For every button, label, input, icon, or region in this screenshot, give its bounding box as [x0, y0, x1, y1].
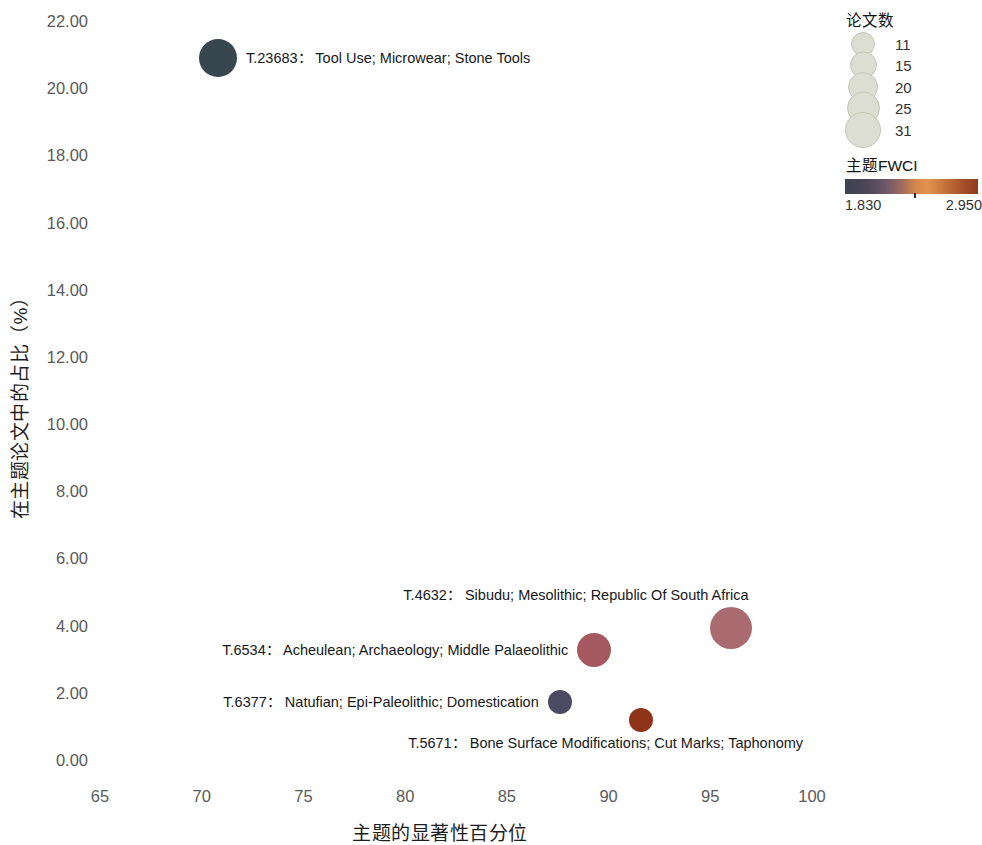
data-point-label: T.23683： Tool Use; Microwear; Stone Tool… — [246, 51, 530, 66]
y-axis-tick-label: 2.00 — [28, 685, 88, 702]
y-axis-tick-label: 16.00 — [28, 215, 88, 232]
data-point-bubble[interactable] — [199, 39, 237, 77]
size-legend-bubble — [845, 112, 881, 148]
size-legend-value: 25 — [895, 101, 912, 116]
x-axis-title: 主题的显著性百分位 — [0, 818, 880, 845]
size-legend-items: 1115202531 — [845, 33, 981, 141]
size-legend-value: 31 — [895, 122, 912, 137]
x-axis-tick-label: 80 — [396, 788, 414, 805]
y-axis-tick-label: 14.00 — [28, 282, 88, 299]
y-axis-tick-label: 10.00 — [28, 416, 88, 433]
color-legend: 主题FWCI 1.830 2.950 — [843, 157, 981, 214]
size-legend-value: 15 — [895, 58, 912, 73]
y-axis-tick-label: 20.00 — [28, 80, 88, 97]
data-point-bubble[interactable] — [710, 607, 752, 649]
y-axis-title: 在主题论文中的占比（%） — [5, 194, 32, 614]
y-axis-tick-label: 8.00 — [28, 483, 88, 500]
y-axis-tick-label: 18.00 — [28, 147, 88, 164]
x-axis-tick-label: 100 — [798, 788, 826, 805]
colorbar-max-value: 2.950 — [946, 197, 982, 213]
y-axis-tick-label: 4.00 — [28, 618, 88, 635]
colorbar-labels: 1.830 2.950 — [845, 197, 982, 214]
data-point-bubble[interactable] — [629, 708, 653, 732]
y-axis-tick-label: 22.00 — [28, 13, 88, 30]
y-axis-tick-label: 0.00 — [28, 752, 88, 769]
size-legend-value: 11 — [895, 36, 911, 51]
x-axis-tick-label: 95 — [701, 788, 719, 805]
data-point-label: T.6377： Natufian; Epi-Paleolithic; Domes… — [223, 695, 538, 710]
data-point-label: T.4632： Sibudu; Mesolithic; Republic Of … — [403, 588, 748, 603]
x-axis-tick-label: 70 — [193, 788, 211, 805]
colorbar-gradient — [845, 179, 978, 194]
data-point-bubble[interactable] — [548, 690, 572, 714]
x-axis-tick-label: 85 — [498, 788, 516, 805]
color-legend-title: 主题FWCI — [846, 157, 981, 174]
y-axis-tick-label: 12.00 — [28, 349, 88, 366]
size-legend-item: 31 — [845, 119, 981, 141]
colorbar-min-value: 1.830 — [845, 197, 881, 213]
data-point-bubble[interactable] — [577, 633, 611, 667]
x-axis-tick-label: 75 — [294, 788, 312, 805]
y-axis-tick-label: 6.00 — [28, 550, 88, 567]
data-point-label: T.5671： Bone Surface Modifications; Cut … — [408, 735, 803, 750]
x-axis-tick-label: 65 — [91, 788, 109, 805]
data-point-label: T.6534： Acheulean; Archaeology; Middle P… — [222, 643, 568, 658]
size-legend-title: 论文数 — [846, 12, 981, 29]
x-axis-tick-label: 90 — [599, 788, 617, 805]
chart-legend: 论文数 1115202531 主题FWCI 1.830 2.950 — [843, 12, 981, 214]
size-legend-value: 20 — [895, 79, 912, 94]
